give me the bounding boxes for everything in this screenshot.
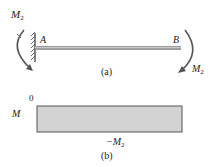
moment-symbol: M (11, 8, 20, 20)
point-b-label: B (173, 35, 179, 45)
moment-arrow-right-icon (178, 30, 193, 73)
moment-label-left: M2 (11, 9, 24, 22)
moment-subscript: 2 (200, 68, 204, 76)
moment-subscript: 2 (20, 14, 24, 22)
moment-diagram-area (37, 106, 182, 132)
fixed-support-icon (31, 32, 35, 62)
zero-label: 0 (29, 94, 34, 103)
value-symbol: −M (106, 136, 121, 147)
moment-value-label: −M2 (106, 137, 125, 149)
beam (35, 46, 181, 50)
point-a-label: A (40, 35, 46, 45)
value-subscript: 2 (121, 141, 125, 149)
moment-label-right: M2 (192, 64, 204, 76)
caption-a: (a) (101, 67, 112, 77)
caption-b: (b) (101, 151, 113, 161)
moment-axis-label: M (12, 109, 20, 119)
moment-arrow-left-icon (17, 30, 33, 71)
bending-moment-diagram: M2 A B M2 (a) 0 M −M2 (b) (0, 0, 218, 167)
